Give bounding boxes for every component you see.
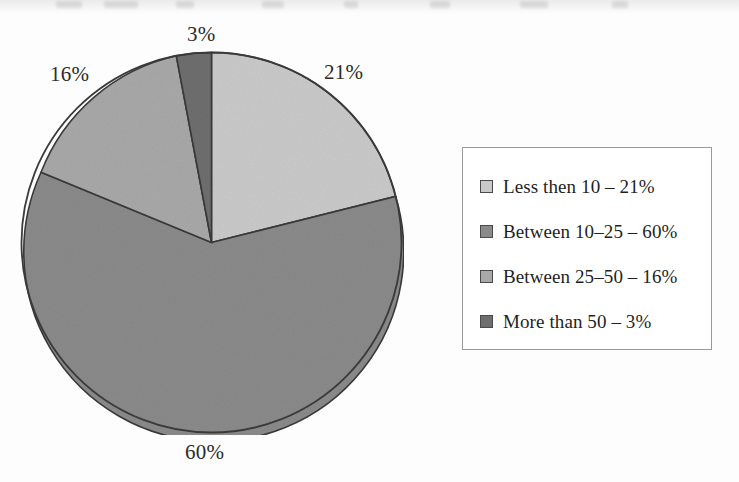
pie-svg [19, 50, 404, 435]
pie-chart-figure: 21% 16% 3% 60% Less then 10 – 21% Betwee… [0, 0, 739, 482]
legend-item-less-then-10: Less then 10 – 21% [480, 164, 711, 209]
legend-item-label: Between 10–25 – 60% [503, 221, 677, 243]
legend-item-between-25-50: Between 25–50 – 16% [480, 254, 711, 299]
chart-legend: Less then 10 – 21% Between 10–25 – 60% B… [462, 147, 712, 350]
legend-swatch-icon [480, 270, 493, 283]
legend-item-more-than-50: More than 50 – 3% [480, 299, 711, 344]
scan-bleed-artifact [0, 0, 739, 14]
legend-item-between-10-25: Between 10–25 – 60% [480, 209, 711, 254]
slice-label-16: 16% [50, 62, 89, 87]
legend-item-label: More than 50 – 3% [503, 311, 651, 333]
legend-item-label: Between 25–50 – 16% [503, 266, 677, 288]
legend-swatch-icon [480, 225, 493, 238]
legend-swatch-icon [480, 315, 493, 328]
pie-chart-area [19, 50, 404, 435]
slice-label-3: 3% [187, 22, 215, 47]
slice-label-21: 21% [324, 60, 363, 85]
legend-swatch-icon [480, 180, 493, 193]
legend-item-label: Less then 10 – 21% [503, 176, 655, 198]
slice-label-60: 60% [185, 440, 224, 465]
